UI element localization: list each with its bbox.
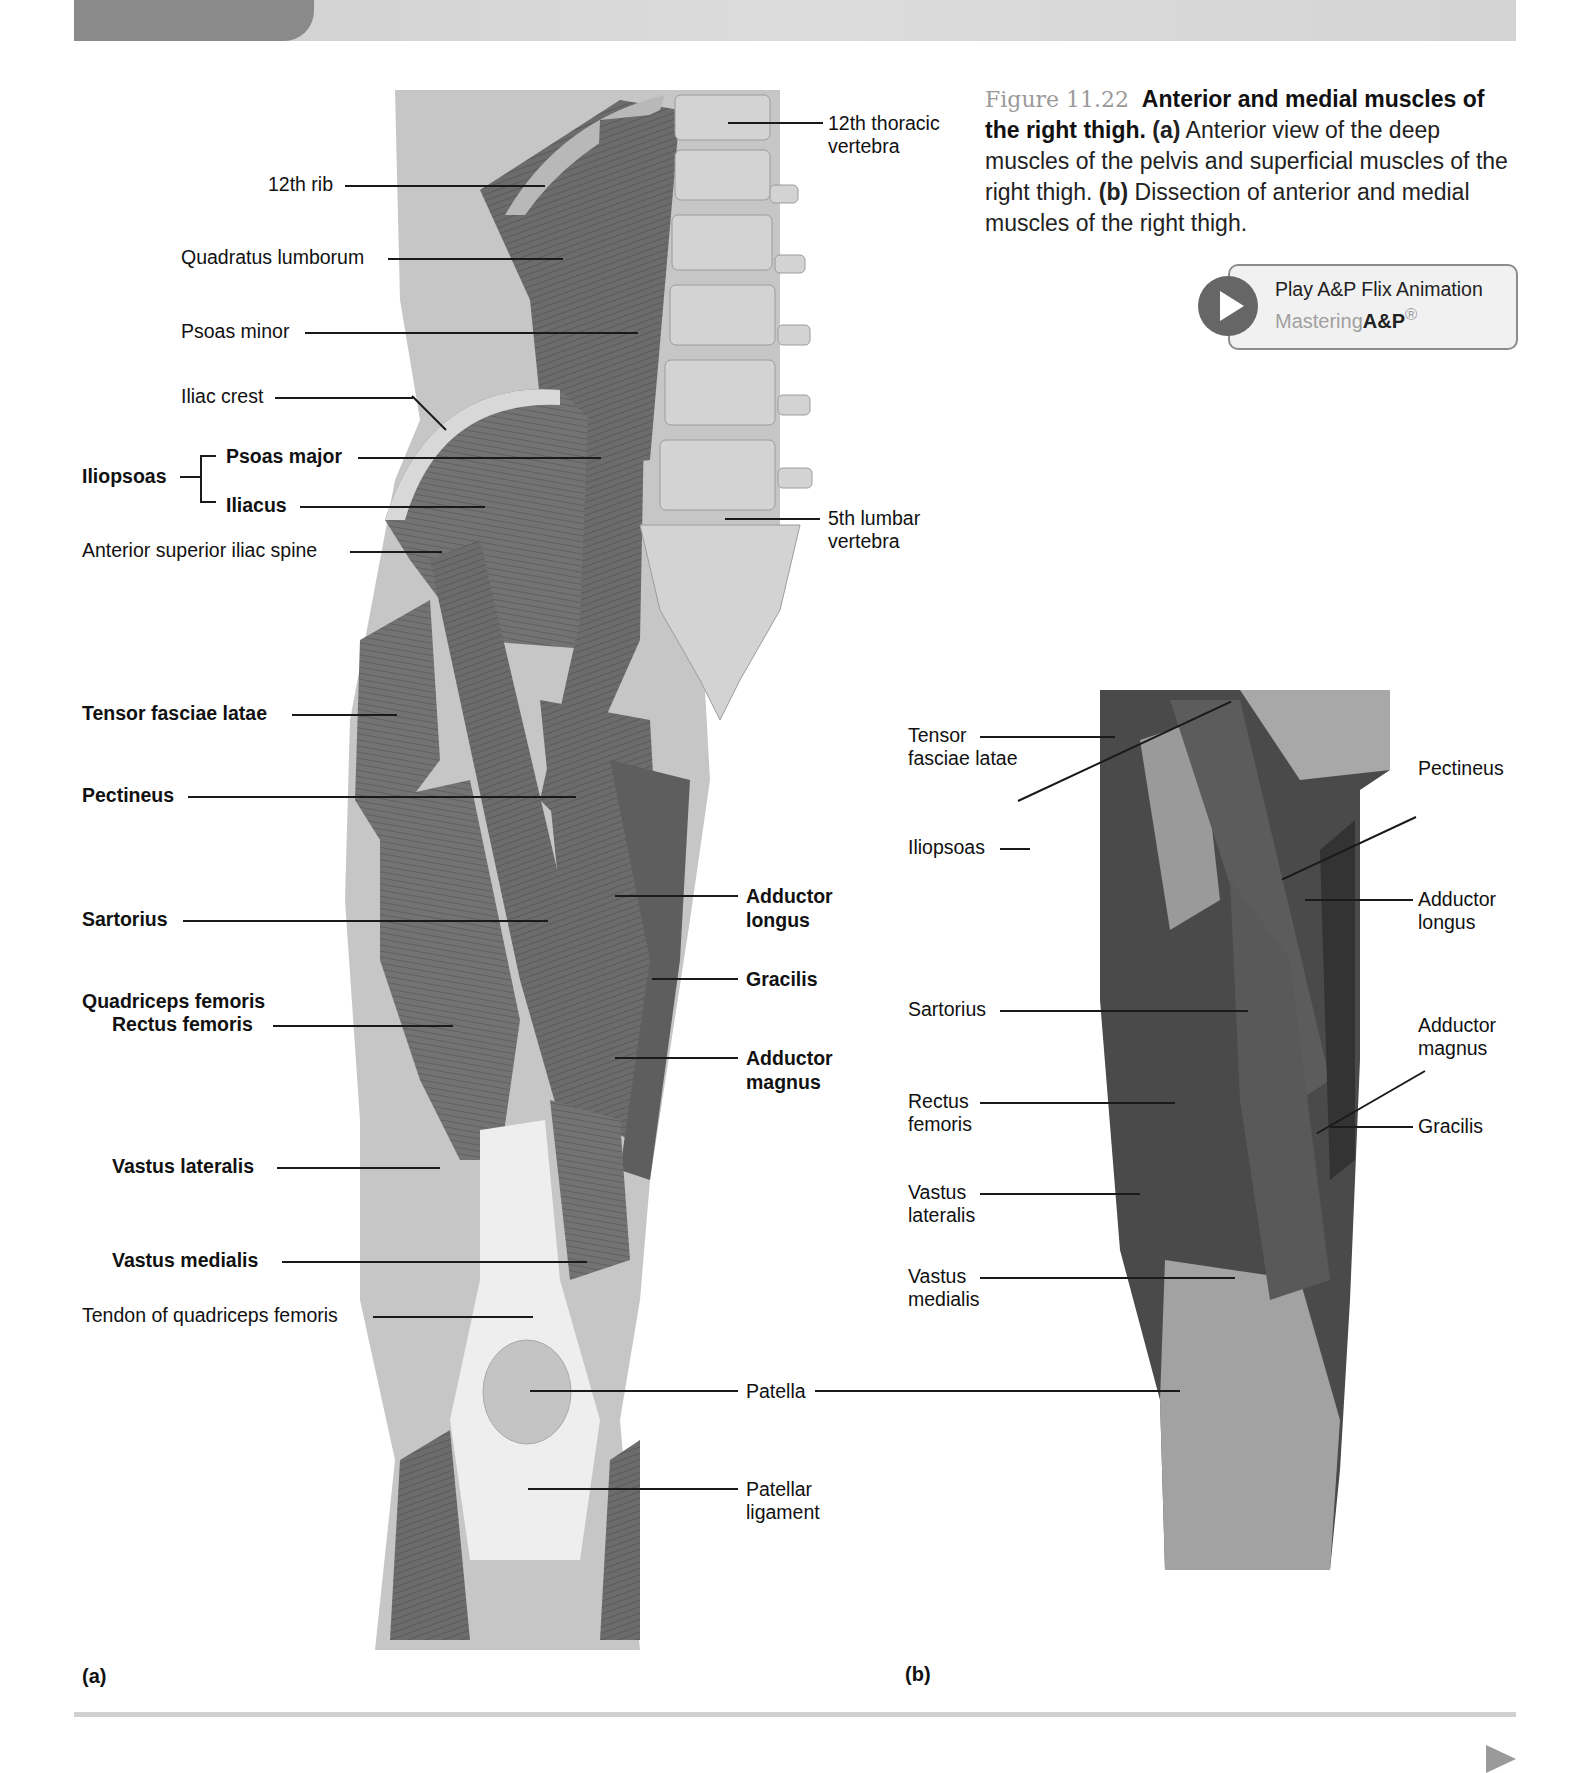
- label-adductor-magnus-l2: magnus: [746, 1071, 821, 1094]
- label-12th-thoracic-vertebra-l1: 12th thoracic: [828, 112, 940, 135]
- label-12th-rib: 12th rib: [268, 173, 333, 196]
- leader-line: [530, 1390, 738, 1392]
- label-quadriceps-femoris: Quadriceps femoris: [82, 990, 265, 1013]
- leader-line: [1330, 1126, 1413, 1128]
- label-rectus-femoris: Rectus femoris: [112, 1013, 253, 1036]
- label-b-adductor-longus-l2: longus: [1418, 911, 1475, 934]
- leader-line: [1000, 1010, 1248, 1012]
- leader-line: [1000, 848, 1030, 850]
- leader-line: [980, 736, 1115, 738]
- leader-line: [725, 518, 820, 520]
- label-quadratus-lumborum: Quadratus lumborum: [181, 246, 364, 269]
- label-b-iliopsoas: Iliopsoas: [908, 836, 985, 859]
- panel-a-illustration: [345, 90, 812, 1650]
- play-animation-label[interactable]: Play A&P Flix Animation: [1275, 278, 1483, 301]
- label-patellar-ligament-l1: Patellar: [746, 1478, 812, 1501]
- label-b-tensor-l2: fasciae latae: [908, 747, 1018, 770]
- leader-line: [1305, 899, 1413, 901]
- label-sartorius: Sartorius: [82, 908, 168, 931]
- label-5th-lumbar-vertebra-l2: vertebra: [828, 530, 900, 553]
- label-patella: Patella: [746, 1380, 806, 1403]
- label-iliac-crest: Iliac crest: [181, 385, 263, 408]
- label-b-vastus-medialis-l2: medialis: [908, 1288, 980, 1311]
- label-iliopsoas: Iliopsoas: [82, 465, 167, 488]
- label-vastus-lateralis: Vastus lateralis: [112, 1155, 254, 1178]
- footer-rule: [74, 1712, 1516, 1717]
- leader-line: [305, 332, 638, 334]
- leader-line: [615, 895, 738, 897]
- leader-line: [188, 796, 576, 798]
- label-psoas-minor: Psoas minor: [181, 320, 289, 343]
- label-pectineus: Pectineus: [82, 784, 174, 807]
- label-b-rectus-l1: Rectus: [908, 1090, 969, 1113]
- label-b-pectineus: Pectineus: [1418, 757, 1504, 780]
- leader-line: [815, 1390, 1180, 1392]
- label-b-vastus-lateralis-l2: lateralis: [908, 1204, 975, 1227]
- label-b-tensor-l1: Tensor: [908, 724, 967, 747]
- leader-line: [980, 1102, 1175, 1104]
- label-12th-thoracic-vertebra-l2: vertebra: [828, 135, 900, 158]
- label-b-adductor-magnus-l2: magnus: [1418, 1037, 1487, 1060]
- label-adductor-magnus-l1: Adductor: [746, 1047, 833, 1070]
- panel-b-dissection-photo: [1100, 690, 1390, 1570]
- label-5th-lumbar-vertebra-l1: 5th lumbar: [828, 507, 920, 530]
- panel-b-tag: (b): [905, 1663, 931, 1686]
- leader-line: [373, 1316, 533, 1318]
- label-b-adductor-magnus-l1: Adductor: [1418, 1014, 1496, 1037]
- leader-line: [388, 258, 563, 260]
- figure-number: Figure 11.22: [985, 87, 1129, 112]
- label-adductor-longus-l2: longus: [746, 909, 810, 932]
- label-vastus-medialis: Vastus medialis: [112, 1249, 258, 1272]
- caption-part-b-tag: (b): [1099, 179, 1128, 205]
- leader-line: [345, 185, 545, 187]
- label-b-vastus-lateralis-l1: Vastus: [908, 1181, 966, 1204]
- label-gracilis: Gracilis: [746, 968, 818, 991]
- label-psoas-major: Psoas major: [226, 445, 342, 468]
- leader-line: [180, 476, 200, 478]
- caption-part-a-tag: (a): [1152, 117, 1180, 143]
- bracket: [200, 455, 216, 503]
- label-b-adductor-longus-l1: Adductor: [1418, 888, 1496, 911]
- label-b-rectus-l2: femoris: [908, 1113, 972, 1136]
- leader-line: [350, 551, 442, 553]
- panel-a-tag: (a): [82, 1665, 106, 1688]
- label-b-gracilis: Gracilis: [1418, 1115, 1483, 1138]
- leader-line: [528, 1488, 738, 1490]
- leader-line: [728, 122, 823, 124]
- label-anterior-superior-iliac-spine: Anterior superior iliac spine: [82, 539, 317, 562]
- leader-line: [652, 978, 738, 980]
- label-patellar-ligament-l2: ligament: [746, 1501, 820, 1524]
- leader-line: [275, 397, 413, 399]
- figure-caption: Figure 11.22 Anterior and medial muscles…: [985, 84, 1525, 239]
- label-tendon-of-quadriceps-femoris: Tendon of quadriceps femoris: [82, 1304, 338, 1327]
- leader-line: [358, 457, 601, 459]
- mastering-ap-brand: MasteringA&P®: [1275, 305, 1417, 333]
- next-page-arrow-icon[interactable]: [1486, 1745, 1516, 1773]
- leader-line: [273, 1025, 453, 1027]
- leader-line: [615, 1057, 738, 1059]
- label-adductor-longus-l1: Adductor: [746, 885, 833, 908]
- leader-line: [980, 1277, 1235, 1279]
- play-icon[interactable]: [1198, 276, 1258, 336]
- leader-line: [277, 1167, 440, 1169]
- leader-line: [183, 920, 548, 922]
- label-tensor-fasciae-latae: Tensor fasciae latae: [82, 702, 267, 725]
- leader-line: [282, 1261, 587, 1263]
- leader-line: [980, 1193, 1140, 1195]
- leader-line: [292, 714, 397, 716]
- label-b-vastus-medialis-l1: Vastus: [908, 1265, 966, 1288]
- label-iliacus: Iliacus: [226, 494, 287, 517]
- leader-line: [300, 506, 485, 508]
- label-b-sartorius: Sartorius: [908, 998, 986, 1021]
